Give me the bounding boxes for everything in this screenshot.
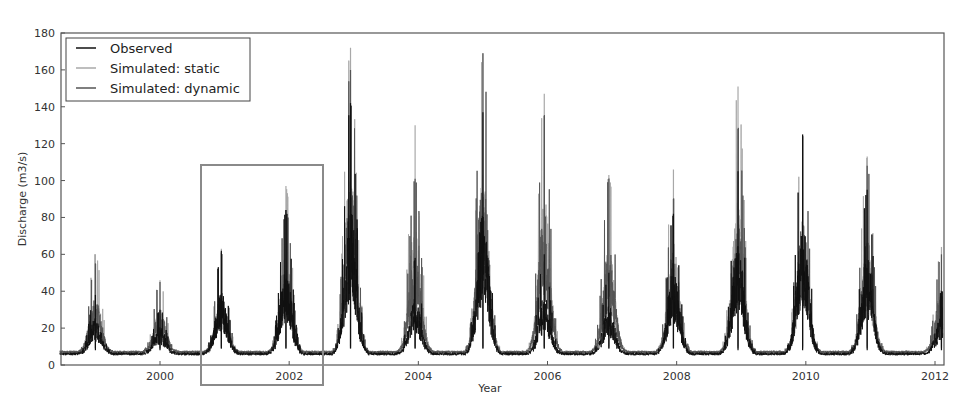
legend-label-observed: Observed: [110, 41, 173, 56]
x-tick-label: 2012: [921, 370, 949, 383]
x-axis-label: Year: [477, 382, 502, 395]
x-tick-label: 2002: [275, 370, 303, 383]
legend-label-dynamic: Simulated: dynamic: [110, 81, 240, 96]
y-tick-label: 80: [41, 211, 55, 224]
legend-label-static: Simulated: static: [110, 61, 220, 76]
x-tick-label: 2010: [792, 370, 820, 383]
y-tick-label: 0: [48, 359, 55, 372]
y-tick-label: 100: [34, 175, 55, 188]
y-axis-label: Discharge (m3/s): [16, 152, 29, 246]
x-axis-ticks: 2000200220042006200820102012: [146, 361, 949, 383]
y-tick-label: 20: [41, 322, 55, 335]
x-tick-label: 2004: [404, 370, 432, 383]
series-line-observed: [60, 106, 943, 356]
x-tick-label: 2008: [663, 370, 691, 383]
y-tick-label: 60: [41, 248, 55, 261]
discharge-chart: 020406080100120140160180 200020022004200…: [0, 0, 965, 410]
x-tick-label: 2006: [534, 370, 562, 383]
y-tick-label: 120: [34, 138, 55, 151]
y-axis-ticks: 020406080100120140160180: [34, 27, 65, 372]
legend: Observed Simulated: static Simulated: dy…: [66, 38, 250, 101]
y-tick-label: 140: [34, 101, 55, 114]
x-tick-label: 2000: [146, 370, 174, 383]
y-tick-label: 40: [41, 285, 55, 298]
y-tick-label: 180: [34, 27, 55, 40]
y-tick-label: 160: [34, 64, 55, 77]
